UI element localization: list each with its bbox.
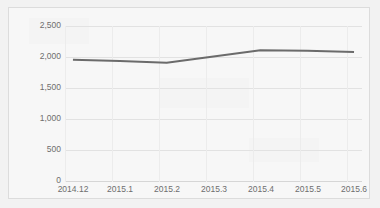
y-axis: 2,500 2,000 1,500 1,000 500 0 [9,26,61,182]
x-tick-label: 2015.1 [107,184,133,194]
chart-screenshot: 2,500 2,000 1,500 1,000 500 0 [0,0,380,208]
x-tick-label: 2014.12 [58,184,89,194]
data-series-line [65,26,362,182]
chart-card: 2,500 2,000 1,500 1,000 500 0 [8,7,370,199]
y-tick-label: 2,000 [13,52,61,61]
x-tick-label: 2015.4 [248,184,274,194]
x-tick-label: 2015.2 [154,184,180,194]
y-tick-label: 0 [13,176,61,185]
x-tick-label: 2015.3 [201,184,227,194]
x-axis: 2014.12 2015.1 2015.2 2015.3 2015.4 2015… [65,184,362,198]
y-tick-label: 500 [13,145,61,154]
x-tick-label: 2015.5 [295,184,321,194]
y-tick-label: 2,500 [13,21,61,30]
x-tick-label: 2015.6 [341,184,367,194]
plot-area [65,26,362,182]
y-tick-label: 1,000 [13,114,61,123]
y-tick-label: 1,500 [13,83,61,92]
